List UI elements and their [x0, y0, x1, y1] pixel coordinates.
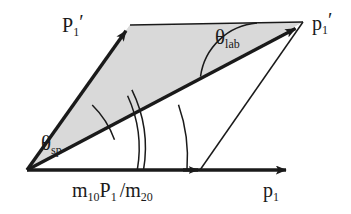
label-p1-axis: p1 — [263, 180, 279, 203]
theta-lab-symbol: θ — [215, 25, 225, 49]
vector-diagram-svg — [0, 0, 351, 214]
theta-lab-subscript: lab — [225, 37, 240, 51]
P1-base: P — [100, 179, 111, 201]
arc-outer-cm-angle — [179, 105, 188, 170]
label-P1-prime-base: P — [62, 14, 73, 36]
label-p1-prime-base: p — [312, 12, 322, 34]
division-slash: / — [117, 179, 126, 201]
theta-sp-subscript: sp — [51, 143, 62, 157]
m10-sub: 10 — [88, 190, 100, 204]
label-P1-prime-cm: P1′ — [62, 12, 84, 38]
P1-sub: 1 — [111, 190, 117, 204]
figure-canvas: P1′ p1′ θlab θsp m10P1/m20 p1 — [0, 0, 351, 214]
m20-sub: 20 — [141, 190, 153, 204]
label-p1-base: p — [263, 179, 273, 201]
m20-base: m — [125, 179, 141, 201]
label-m10-P1-over-m20: m10P1/m20 — [72, 180, 153, 203]
label-theta-sp: θsp — [41, 133, 62, 156]
label-P1-prime-mark: ′ — [79, 11, 83, 33]
label-theta-lab: θlab — [215, 27, 240, 50]
label-p1-prime-mark: ′ — [328, 9, 332, 31]
label-p1-sub: 1 — [273, 190, 279, 204]
m10-base: m — [72, 179, 88, 201]
theta-sp-symbol: θ — [41, 131, 51, 155]
label-p1-prime-lab: p1′ — [312, 10, 332, 36]
